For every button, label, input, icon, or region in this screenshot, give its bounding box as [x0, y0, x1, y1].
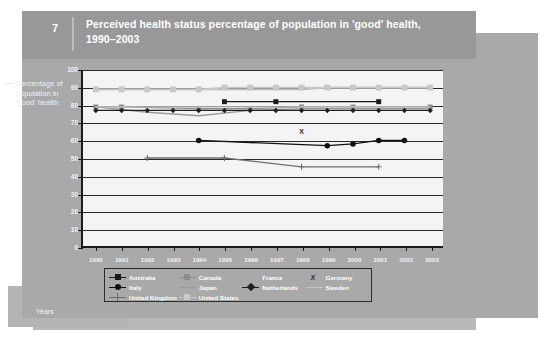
series-united-kingdom — [144, 155, 381, 170]
x-tick — [329, 246, 330, 251]
figure-title: Perceived health status percentage of po… — [86, 17, 446, 47]
legend-label: Canada — [199, 274, 221, 281]
x-tick — [432, 246, 433, 251]
plot-region: 0102030405060708090100 19901991199219931… — [81, 70, 443, 248]
legend-label: Germany — [326, 274, 353, 281]
figure-number: 7 — [52, 22, 58, 34]
none-marker-icon — [179, 283, 196, 292]
y-axis-caption-leader — [5, 83, 14, 84]
x-tick-label: 1998 — [290, 256, 316, 263]
figure-panel: 7 Perceived health status percentage of … — [0, 0, 547, 341]
x-tick-label: 2002 — [393, 256, 419, 263]
x-tick-label: 1991 — [109, 256, 135, 263]
legend-item-united-kingdom[interactable]: United Kingdom — [109, 292, 177, 302]
legend-item-canada[interactable]: Canada — [179, 272, 240, 282]
none-marker-icon — [306, 283, 323, 292]
square-marker-icon — [179, 293, 196, 302]
chart-area: 0102030405060708090100 19901991199219931… — [62, 66, 472, 266]
y-tick-label: 100 — [59, 66, 78, 73]
legend-label: France — [262, 274, 282, 281]
x-tick — [174, 246, 175, 251]
y-tick-label: 30 — [59, 191, 78, 198]
chart-legend: AustraliaCanadaFranceXGermanyItalyJapanN… — [104, 268, 372, 302]
y-tick-label: 90 — [59, 84, 78, 91]
x-tick-label: 1993 — [161, 256, 187, 263]
y-tick-label: 60 — [59, 137, 78, 144]
header-divider — [72, 17, 74, 51]
x-tick-label: 2000 — [342, 256, 368, 263]
svg-text:X: X — [299, 128, 304, 135]
series-united-states — [93, 85, 433, 93]
series-italy — [196, 138, 407, 149]
x-tick — [277, 246, 278, 251]
legend-item-united-states[interactable]: United States — [179, 292, 240, 302]
x-tick — [303, 246, 304, 251]
x-tick-label: 1996 — [238, 256, 264, 263]
x-tick-label: 1997 — [264, 256, 290, 263]
legend-item-france[interactable]: France — [242, 272, 303, 282]
x-tick-label: 1995 — [212, 256, 238, 263]
data-series-layer: X — [83, 70, 443, 246]
x-tick — [380, 246, 381, 251]
y-tick-label: 70 — [59, 119, 78, 126]
plus-marker-icon — [109, 293, 126, 302]
x-tick-label: 2001 — [367, 256, 393, 263]
legend-label: United States — [199, 294, 239, 301]
legend-item-japan[interactable]: Japan — [179, 282, 240, 292]
legend-item-italy[interactable]: Italy — [109, 282, 177, 292]
x-tick-label: 1992 — [135, 256, 161, 263]
x-tick — [355, 246, 356, 251]
square-marker-icon — [109, 273, 126, 282]
legend-label: Japan — [199, 284, 217, 291]
legend-item-germany[interactable]: XGermany — [306, 272, 367, 282]
y-tick-label: 10 — [59, 226, 78, 233]
series-australia — [222, 99, 381, 104]
y-tick-label: 0 — [59, 244, 78, 251]
legend-item-netherlands[interactable]: Netherlands — [242, 282, 303, 292]
circle-marker-icon — [109, 283, 126, 292]
diamond-marker-icon — [242, 283, 259, 292]
legend-item-australia[interactable]: Australia — [109, 272, 177, 282]
legend-label: Netherlands — [262, 284, 298, 291]
x-tick-label: 1994 — [186, 256, 212, 263]
x-tick — [148, 246, 149, 251]
x-tick-label: 2003 — [419, 256, 445, 263]
x-tick — [406, 246, 407, 251]
legend-label: Sweden — [326, 284, 349, 291]
series-germany: X — [299, 128, 304, 135]
x-tick-label: 1990 — [83, 256, 109, 263]
legend-item-sweden[interactable]: Sweden — [306, 282, 367, 292]
x-tick — [225, 246, 226, 251]
x-tick — [96, 246, 97, 251]
x-tick — [251, 246, 252, 251]
x-marker-icon: X — [306, 273, 323, 282]
y-tick-label: 40 — [59, 173, 78, 180]
x-axis-caption: Years — [36, 308, 54, 315]
y-tick-label: 80 — [59, 102, 78, 109]
legend-label: United Kingdom — [129, 294, 177, 301]
x-tick — [199, 246, 200, 251]
none-marker-icon — [242, 273, 259, 282]
legend-label: Australia — [129, 274, 155, 281]
y-tick-label: 20 — [59, 208, 78, 215]
square-marker-icon — [179, 273, 196, 282]
y-tick — [78, 248, 83, 249]
legend-label: Italy — [129, 284, 141, 291]
x-tick — [122, 246, 123, 251]
x-tick-label: 1999 — [316, 256, 342, 263]
y-tick-label: 50 — [59, 155, 78, 162]
background-step-right — [476, 33, 538, 318]
